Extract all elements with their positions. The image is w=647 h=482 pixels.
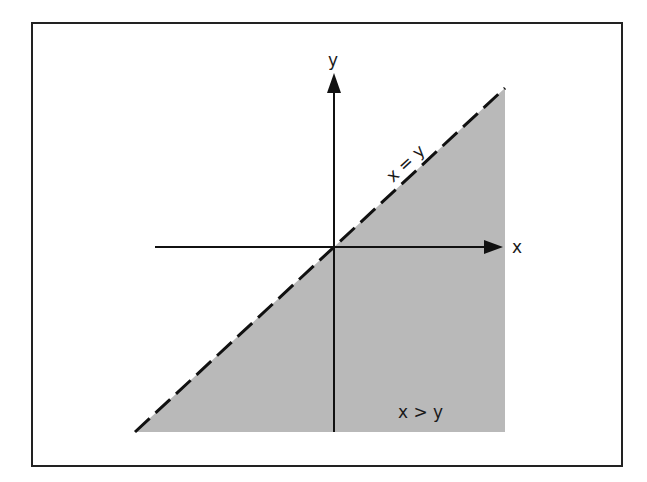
- region-label: x > y: [398, 402, 443, 422]
- x-axis-label: x: [512, 237, 522, 257]
- y-axis-arrow-icon: [327, 73, 341, 93]
- inequality-diagram: x y x = y x > y: [0, 0, 647, 482]
- y-axis-label: y: [328, 50, 338, 70]
